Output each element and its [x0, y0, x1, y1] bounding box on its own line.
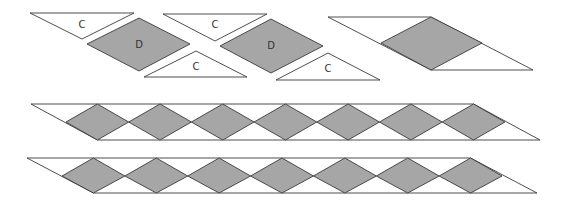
exploded-pieces: CDCCDC — [30, 13, 380, 80]
label-d: D — [135, 39, 143, 50]
assembled-unit — [328, 17, 533, 70]
label-c: C — [193, 61, 200, 72]
label-c: C — [212, 19, 219, 30]
label-c: C — [325, 63, 332, 74]
tessellation-diagram: CDCCDC — [0, 0, 566, 208]
strip-2 — [27, 158, 537, 193]
strip-1 — [31, 104, 540, 140]
diamond-strips — [27, 104, 540, 193]
label-c: C — [79, 19, 86, 30]
label-d: D — [267, 40, 275, 51]
